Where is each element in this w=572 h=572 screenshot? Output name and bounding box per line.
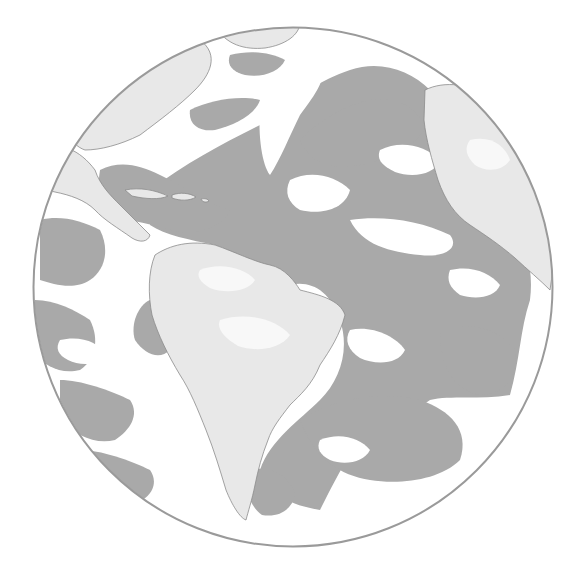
globe-surface	[0, 0, 572, 572]
globe-image	[0, 0, 572, 572]
